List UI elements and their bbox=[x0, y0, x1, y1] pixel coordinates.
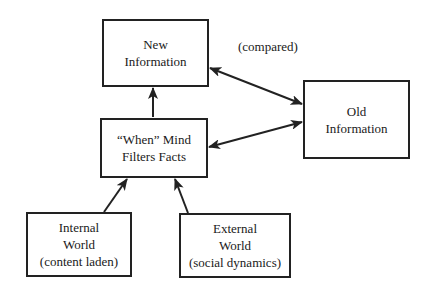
edge-external-filter bbox=[175, 179, 188, 213]
node-new-information: New Information bbox=[102, 19, 209, 87]
node-new-information-line-1: New bbox=[143, 36, 168, 53]
node-old-information: Old Information bbox=[303, 80, 410, 159]
node-external-world-line-3: (social dynamics) bbox=[189, 254, 281, 271]
node-internal-world-line-2: World bbox=[63, 236, 95, 253]
node-old-information-line-2: Information bbox=[325, 120, 387, 137]
node-new-information-line-2: Information bbox=[124, 53, 186, 70]
node-mind-filters-facts-line-2: Filters Facts bbox=[122, 148, 186, 165]
node-mind-filters-facts-line-1: “When” Mind bbox=[117, 131, 191, 148]
node-external-world-line-2: World bbox=[219, 237, 251, 254]
node-external-world: External World (social dynamics) bbox=[179, 213, 291, 278]
node-external-world-line-1: External bbox=[213, 220, 257, 237]
node-old-information-line-1: Old bbox=[347, 103, 367, 120]
edge-filter-old bbox=[209, 122, 302, 147]
node-internal-world-line-1: Internal bbox=[59, 219, 99, 236]
node-mind-filters-facts: “When” Mind Filters Facts bbox=[100, 118, 208, 178]
edge-new-old bbox=[210, 68, 302, 104]
node-internal-world: Internal World (content laden) bbox=[26, 212, 132, 277]
node-internal-world-line-3: (content laden) bbox=[40, 253, 118, 270]
edge-label-compared: (compared) bbox=[238, 39, 298, 55]
edge-internal-filter bbox=[104, 179, 127, 212]
